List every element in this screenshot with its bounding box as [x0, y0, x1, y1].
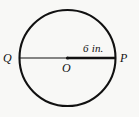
circle-diagram-canvas: [0, 0, 139, 117]
point-label-p: P: [120, 52, 127, 64]
point-label-o: O: [62, 62, 71, 74]
point-label-q: Q: [3, 52, 12, 64]
circle-diagram-figure: Q O P 6 in.: [0, 0, 139, 117]
center-point-dot: [66, 56, 69, 59]
radius-measurement-label: 6 in.: [83, 43, 104, 54]
